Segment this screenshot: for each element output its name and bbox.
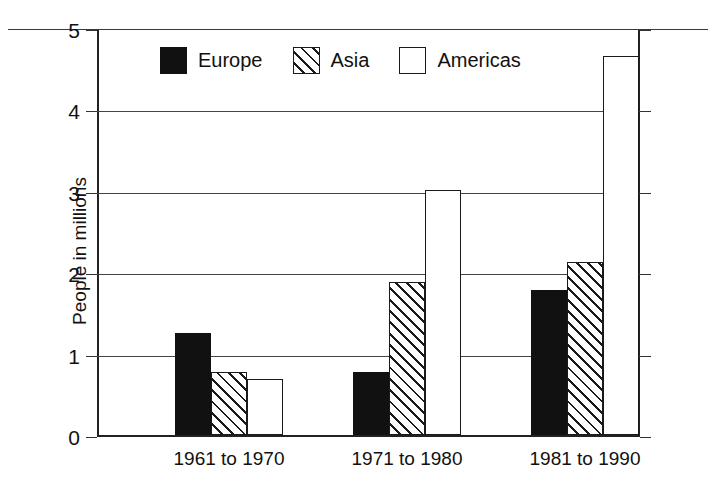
y-axis-tick-label: 3	[68, 182, 80, 203]
x-axis-label-3: 1981 to 1990	[530, 448, 641, 470]
chart-legend: EuropeAsiaAmericas	[160, 47, 521, 74]
solid-black-swatch	[160, 47, 187, 74]
bar-europe-3	[531, 290, 567, 435]
gridline	[97, 111, 640, 112]
empty-swatch	[399, 47, 426, 74]
bar-americas-1	[247, 379, 283, 435]
y-axis-tick	[86, 30, 97, 31]
gridline	[97, 274, 640, 275]
legend-item-asia: Asia	[293, 47, 400, 74]
y-axis-tick	[86, 356, 97, 357]
plot-area: 012345	[97, 30, 640, 437]
x-axis-line	[97, 435, 640, 437]
gridline	[97, 193, 640, 194]
y-axis-tick-label: 0	[68, 427, 80, 448]
bar-europe-1	[175, 333, 211, 435]
y-axis-tick-right	[640, 30, 651, 31]
y-axis-tick-right	[640, 356, 651, 357]
bar-asia-3	[567, 262, 603, 435]
legend-item-europe: Europe	[160, 47, 293, 74]
y-axis-tick-label: 1	[68, 345, 80, 366]
legend-label: Europe	[198, 49, 263, 72]
y-axis-tick-right	[640, 437, 651, 438]
y-axis-tick-right	[640, 274, 651, 275]
y-axis-tick-label: 2	[68, 264, 80, 285]
y-axis-tick-label: 4	[68, 101, 80, 122]
legend-label: Americas	[437, 49, 520, 72]
y-axis-tick	[86, 437, 97, 438]
y-axis-tick	[86, 193, 97, 194]
bar-asia-1	[211, 372, 247, 435]
legend-item-americas: Americas	[399, 47, 520, 74]
bar-europe-2	[353, 372, 389, 435]
bar-asia-2	[389, 282, 425, 435]
hatched-swatch	[293, 47, 320, 74]
legend-label: Asia	[331, 49, 370, 72]
bar-americas-2	[425, 190, 461, 435]
x-axis-label-2: 1971 to 1980	[352, 448, 463, 470]
bar-americas-3	[603, 56, 639, 435]
x-axis-label-1: 1961 to 1970	[174, 448, 285, 470]
y-axis-line	[97, 30, 99, 437]
y-axis-tick-label: 5	[68, 20, 80, 41]
y-axis-tick-right	[640, 193, 651, 194]
y-axis-tick	[86, 111, 97, 112]
y-axis-tick-right	[640, 111, 651, 112]
bar-chart-figure: People in millions 012345 1961 to 197019…	[0, 0, 720, 502]
y-axis-tick	[86, 274, 97, 275]
